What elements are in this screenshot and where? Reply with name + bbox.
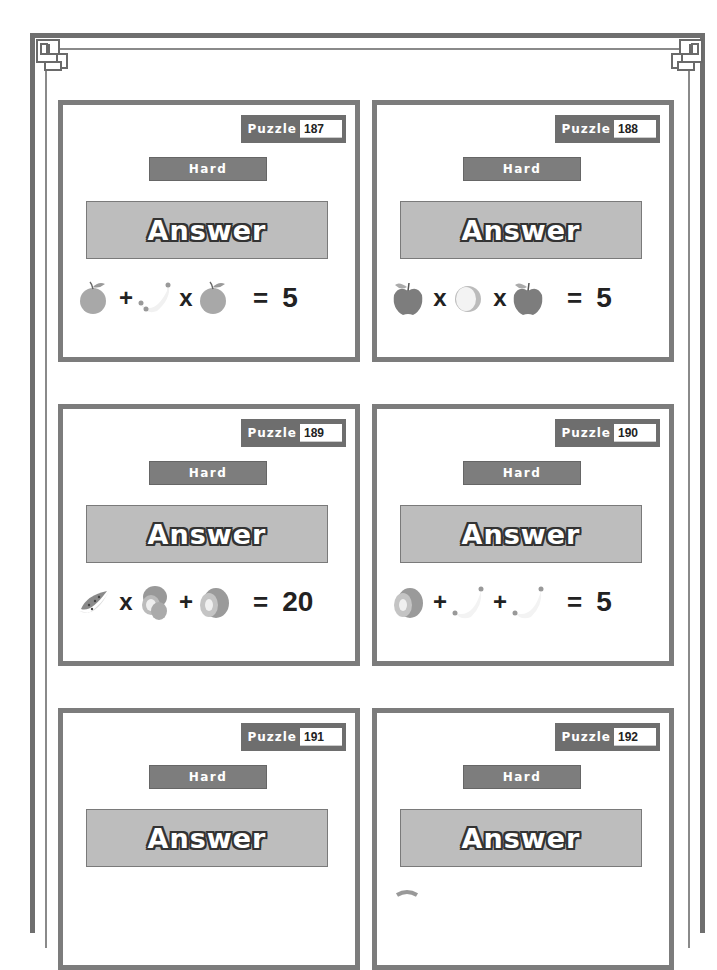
fruit-icon-partial [391,889,425,927]
puzzle-label: Puzzle [247,122,297,136]
puzzle-number-tag: Puzzle 189 [241,419,346,447]
answer-box: Answer [400,505,642,563]
equation-result: 20 [282,586,313,618]
puzzle-label: Puzzle [247,426,297,440]
operator: x [115,588,137,616]
answer-box: Answer [400,201,642,259]
difficulty-badge: Hard [463,461,581,485]
puzzle-number: 187 [300,120,342,138]
answer-label: Answer [148,823,267,854]
difficulty-badge: Hard [149,461,267,485]
answer-label: Answer [462,823,581,854]
corner-ornament-icon [35,38,71,74]
puzzle-number: 191 [300,728,342,746]
banana-icon [511,583,545,621]
puzzle-card: Puzzle 192 Hard Answer [372,708,674,970]
operator: x [489,284,511,312]
equation-result: 5 [596,586,612,618]
answer-box: Answer [400,809,642,867]
answer-label: Answer [148,519,267,550]
operator: x [175,284,197,312]
operator: + [115,284,137,312]
answer-box: Answer [86,505,328,563]
puzzle-number-tag: Puzzle 188 [555,115,660,143]
equation: + + = 5 [391,579,661,625]
puzzle-number: 190 [614,424,656,442]
puzzle-card: Puzzle 191 Hard Answer [58,708,360,970]
puzzle-label: Puzzle [561,122,611,136]
puzzle-number-tag: Puzzle 187 [241,115,346,143]
puzzle-label: Puzzle [247,730,297,744]
banana-icon [137,279,171,317]
puzzle-card: Puzzle 190 Hard Answer + + = 5 [372,404,674,666]
equals-sign: = [253,283,268,314]
kiwi-icon [391,583,425,621]
operator: + [489,588,511,616]
answer-box: Answer [86,201,328,259]
banana-icon [451,583,485,621]
puzzle-number-tag: Puzzle 191 [241,723,346,751]
difficulty-badge: Hard [463,765,581,789]
answer-box: Answer [86,809,328,867]
puzzle-number: 189 [300,424,342,442]
puzzle-card: Puzzle 189 Hard Answer x + = 20 [58,404,360,666]
puzzle-label: Puzzle [561,730,611,744]
equals-sign: = [567,283,582,314]
corner-ornament-icon [668,38,704,74]
puzzle-number-tag: Puzzle 192 [555,723,660,751]
equation: + x = 5 [77,275,347,321]
equation: x x = 5 [391,275,661,321]
puzzle-card: Puzzle 188 Hard Answer x x = 5 [372,100,674,362]
puzzle-number-tag: Puzzle 190 [555,419,660,447]
lemon-half-icon [451,279,485,317]
puzzle-label: Puzzle [561,426,611,440]
apple-icon [391,279,425,317]
answer-label: Answer [148,215,267,246]
difficulty-badge: Hard [463,157,581,181]
equals-sign: = [567,587,582,618]
equation: x + = 20 [77,579,347,625]
equation-result: 5 [282,282,298,314]
operator: x [429,284,451,312]
watermelon-slice-icon [77,583,111,621]
puzzle-number: 192 [614,728,656,746]
difficulty-badge: Hard [149,765,267,789]
puzzle-card: Puzzle 187 Hard Answer + x = 5 [58,100,360,362]
orange-icon [197,279,231,317]
kiwi-pair-icon [137,583,171,621]
operator: + [429,588,451,616]
puzzle-number: 188 [614,120,656,138]
operator: + [175,588,197,616]
answer-label: Answer [462,519,581,550]
kiwi-icon [197,583,231,621]
equation-partial [391,885,661,931]
answer-label: Answer [462,215,581,246]
apple-icon [511,279,545,317]
orange-icon [77,279,111,317]
equals-sign: = [253,587,268,618]
equation-result: 5 [596,282,612,314]
difficulty-badge: Hard [149,157,267,181]
